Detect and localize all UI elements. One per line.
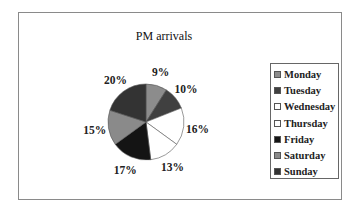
legend-label: Friday <box>284 134 314 145</box>
data-label-saturday: 15% <box>83 124 106 136</box>
legend-item-sunday: Sunday <box>274 164 338 180</box>
data-label-tuesday: 10% <box>175 83 198 95</box>
legend-swatch <box>274 120 281 127</box>
legend-label: Thursday <box>284 118 328 129</box>
legend-label: Monday <box>284 69 321 80</box>
legend-swatch <box>274 136 281 143</box>
data-label-thursday: 13% <box>161 161 184 173</box>
legend-item-thursday: Thursday <box>274 115 338 131</box>
legend-label: Sunday <box>284 166 318 177</box>
legend: MondayTuesdayWednesdayThursdayFridaySatu… <box>270 63 339 179</box>
legend-item-monday: Monday <box>274 66 338 82</box>
legend-label: Wednesday <box>284 101 335 112</box>
data-label-monday: 9% <box>152 66 169 78</box>
data-label-wednesday: 16% <box>186 123 209 135</box>
legend-item-tuesday: Tuesday <box>274 82 338 98</box>
legend-item-saturday: Saturday <box>274 147 338 163</box>
data-label-sunday: 20% <box>104 74 127 86</box>
legend-swatch <box>274 87 281 94</box>
legend-item-wednesday: Wednesday <box>274 99 338 115</box>
legend-swatch <box>274 103 281 110</box>
legend-swatch <box>274 152 281 159</box>
legend-swatch <box>274 168 281 175</box>
data-label-friday: 17% <box>114 164 137 176</box>
chart-frame: PM arrivals 9%10%16%13%17%15%20% MondayT… <box>18 12 342 200</box>
legend-label: Saturday <box>284 150 325 161</box>
legend-swatch <box>274 71 281 78</box>
legend-label: Tuesday <box>284 85 321 96</box>
legend-item-friday: Friday <box>274 131 338 147</box>
